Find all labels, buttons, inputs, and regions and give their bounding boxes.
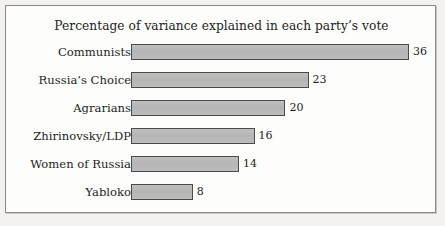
bar-wrap: 8 bbox=[131, 184, 204, 200]
bar-row: Zhirinovsky/LDP16 bbox=[6, 126, 437, 146]
bar-chart-plot-area: Communists36Russia’s Choice23Agrarians20… bbox=[6, 42, 437, 212]
bar-row: Women of Russia14 bbox=[6, 154, 437, 174]
bar-category-label: Agrarians bbox=[0, 98, 131, 118]
bar-value-label: 14 bbox=[243, 156, 257, 172]
bar bbox=[131, 44, 409, 60]
bar bbox=[131, 128, 255, 144]
chart-frame: Percentage of variance explained in each… bbox=[5, 5, 436, 213]
bar bbox=[131, 100, 285, 116]
bar-value-label: 23 bbox=[313, 72, 327, 88]
bar-category-label: Zhirinovsky/LDP bbox=[0, 126, 131, 146]
bar-wrap: 14 bbox=[131, 156, 257, 172]
bar bbox=[131, 184, 193, 200]
bar-wrap: 16 bbox=[131, 128, 273, 144]
bar-row: Communists36 bbox=[6, 42, 437, 62]
bar-category-label: Communists bbox=[0, 42, 131, 62]
bar-category-label: Women of Russia bbox=[0, 154, 131, 174]
bar-row: Russia’s Choice23 bbox=[6, 70, 437, 90]
bar-value-label: 20 bbox=[289, 100, 303, 116]
bar-row: Agrarians20 bbox=[6, 98, 437, 118]
chart-title: Percentage of variance explained in each… bbox=[6, 19, 437, 33]
bar-category-label: Russia’s Choice bbox=[0, 70, 131, 90]
bar-value-label: 8 bbox=[197, 184, 204, 200]
bar-wrap: 20 bbox=[131, 100, 303, 116]
bar-category-label: Yabloko bbox=[0, 182, 131, 202]
bar-wrap: 23 bbox=[131, 72, 327, 88]
bar-wrap: 36 bbox=[131, 44, 427, 60]
bar-value-label: 36 bbox=[413, 44, 427, 60]
bar bbox=[131, 156, 239, 172]
chart-page: Percentage of variance explained in each… bbox=[0, 0, 445, 226]
bar bbox=[131, 72, 309, 88]
bar-value-label: 16 bbox=[259, 128, 273, 144]
bar-row: Yabloko8 bbox=[6, 182, 437, 202]
